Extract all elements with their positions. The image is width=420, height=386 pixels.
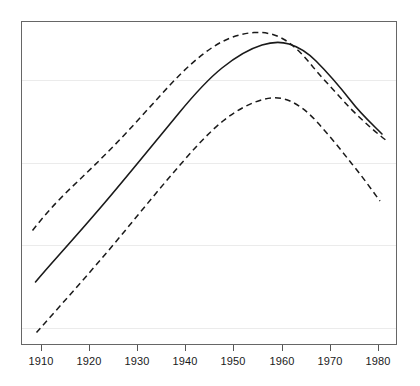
- x-tick-label-1910: 1910: [29, 355, 54, 367]
- x-tick-label-1970: 1970: [318, 355, 343, 367]
- x-tick-label-1960: 1960: [270, 355, 295, 367]
- chart-figure: 1910 1920 1930 1940 1950 1960 1970 1980: [0, 0, 420, 386]
- line-chart-plot: [0, 0, 420, 386]
- x-tick-label-1980: 1980: [366, 355, 391, 367]
- x-tick-label-1920: 1920: [77, 355, 102, 367]
- x-tick-label-1950: 1950: [221, 355, 246, 367]
- x-tick-marks: [42, 345, 379, 351]
- x-tick-label-1940: 1940: [173, 355, 198, 367]
- x-tick-label-1930: 1930: [125, 355, 150, 367]
- plot-background: [21, 21, 397, 345]
